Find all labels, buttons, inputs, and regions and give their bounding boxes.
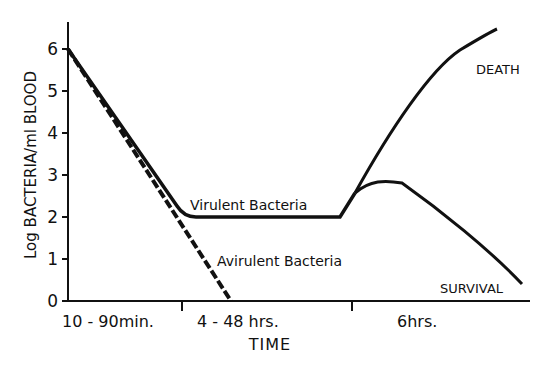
y-tick-label-6: 6	[47, 39, 58, 59]
y-tick-label-0: 0	[47, 291, 58, 311]
y-tick-label-1: 1	[47, 249, 58, 269]
y-tick-label-2: 2	[47, 207, 58, 227]
y-tick-label-5: 5	[47, 81, 58, 101]
y-tick-label-4: 4	[47, 123, 58, 143]
survival-line	[355, 181, 522, 284]
x-phase-label-2: 4 - 48 hrs.	[197, 312, 279, 331]
virulent-label: Virulent Bacteria	[190, 197, 307, 213]
death-label: DEATH	[476, 62, 520, 77]
death-line	[355, 29, 497, 193]
chart: 0 1 2 3 4 5 6 Log BACTERIA/ml BLOOD Viru…	[0, 0, 542, 368]
x-axis-label: TIME	[248, 335, 291, 354]
x-phase-label-1: 10 - 90min.	[62, 312, 154, 331]
y-axis-label: Log BACTERIA/ml BLOOD	[22, 71, 40, 259]
x-phase-label-3: 6hrs.	[397, 312, 437, 331]
virulent-line	[68, 49, 355, 217]
avirulent-label: Avirulent Bacteria	[217, 253, 342, 269]
survival-label: SURVIVAL	[440, 281, 504, 296]
y-tick-label-3: 3	[47, 165, 58, 185]
